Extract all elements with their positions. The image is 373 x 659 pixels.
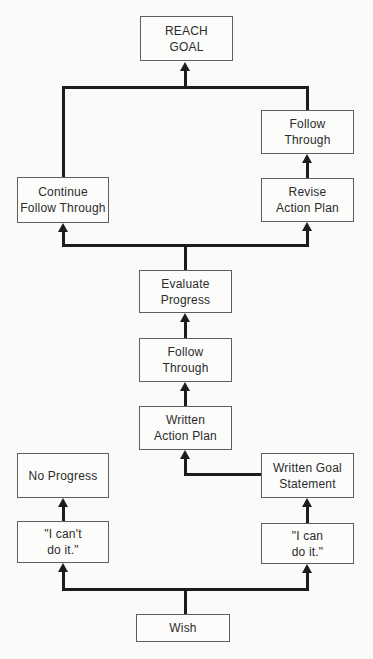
connector-top-merge-line xyxy=(62,86,309,89)
node-continue-follow-through: Continue Follow Through xyxy=(17,177,109,223)
connector-evaluate-progress-up xyxy=(184,244,187,270)
node-written-action-plan: Written Action Plan xyxy=(139,406,232,450)
connector-follow-through-mid-up xyxy=(184,320,187,339)
node-i-cant-do-it: "I can't do it." xyxy=(17,521,109,563)
connector-wish-up xyxy=(184,588,187,614)
node-revise-action-plan: Revise Action Plan xyxy=(261,178,354,222)
node-written-goal-statement: Written Goal Statement xyxy=(261,453,354,498)
node-wish: Wish xyxy=(136,614,230,642)
connector-i-cant-up xyxy=(62,505,65,522)
node-no-progress: No Progress xyxy=(17,453,109,498)
node-evaluate-progress: Evaluate Progress xyxy=(139,270,232,313)
node-i-can-do-it: "I can do it." xyxy=(261,523,354,564)
connector-continue-follow-through-up xyxy=(62,86,65,177)
connector-follow-through-top-up xyxy=(306,86,309,111)
node-follow-through-top: Follow Through xyxy=(261,110,354,154)
connector-written-action-plan-up xyxy=(184,389,187,407)
connector-wish-right-up xyxy=(306,571,309,591)
connector-goal-statement-elbow-horizontal xyxy=(184,473,261,476)
flowchart-canvas: REACH GOAL Follow Through Continue Follo… xyxy=(0,0,373,659)
node-follow-through-mid: Follow Through xyxy=(139,338,232,382)
connector-i-can-up xyxy=(306,505,309,524)
connector-branch-right-up xyxy=(306,229,309,247)
connector-revise-to-follow-through xyxy=(306,161,309,179)
node-reach-goal: REACH GOAL xyxy=(140,16,233,61)
